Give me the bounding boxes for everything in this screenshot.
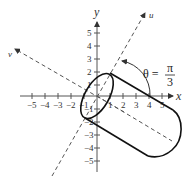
- y-axis: 5 4 3 2 1 −1 −2 −3 −4 −5 y: [84, 5, 100, 172]
- y-tick-label: −3: [84, 130, 94, 140]
- y-tick-label: 5: [87, 28, 92, 38]
- y-tick-label: 3: [87, 54, 92, 64]
- x-tick-label: 4: [147, 100, 152, 110]
- theta-angle: θ = π 3: [122, 61, 175, 96]
- y-tick-label: −5: [84, 156, 94, 166]
- cylinder-bottom-edge: [85, 118, 148, 156]
- x-tick-label: 3: [134, 100, 139, 110]
- x-tick-label: −2: [66, 100, 76, 110]
- cylinder-end-cap: [148, 110, 181, 157]
- cylinder-top-edge: [110, 73, 173, 110]
- x-axis: −5 −4 −3 −2 −1 1 2 3 4 5 x: [20, 89, 182, 110]
- y-tick-label: 2: [87, 67, 92, 77]
- theta-denominator: 3: [167, 75, 173, 89]
- rotated-axes-cylinder-diagram: −5 −4 −3 −2 −1 1 2 3 4 5 x 5 4 3 2 1 −1: [0, 0, 187, 180]
- x-axis-label: x: [175, 89, 182, 103]
- theta-label: θ =: [143, 67, 159, 81]
- x-tick-label: −3: [53, 100, 63, 110]
- v-axis-label: v: [8, 49, 12, 59]
- x-tick-label: −5: [27, 100, 37, 110]
- x-tick-label: 2: [121, 100, 126, 110]
- theta-numerator: π: [167, 61, 173, 75]
- x-tick-label: −4: [40, 100, 50, 110]
- u-axis-label: u: [149, 10, 154, 20]
- y-tick-label: 4: [87, 41, 92, 51]
- y-axis-label: y: [93, 5, 100, 19]
- y-tick-label: −4: [84, 143, 94, 153]
